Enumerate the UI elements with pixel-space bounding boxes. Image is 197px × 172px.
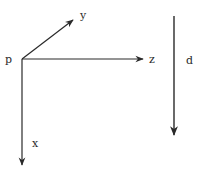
coordinate-diagram: p y z x d [0,0,197,172]
origin-label: p [5,53,12,66]
y-axis-label: y [79,9,87,22]
d-vector-label: d [186,54,193,67]
x-axis-label: x [32,137,39,150]
y-axis-arrow [22,20,73,59]
z-axis-label: z [149,53,155,66]
